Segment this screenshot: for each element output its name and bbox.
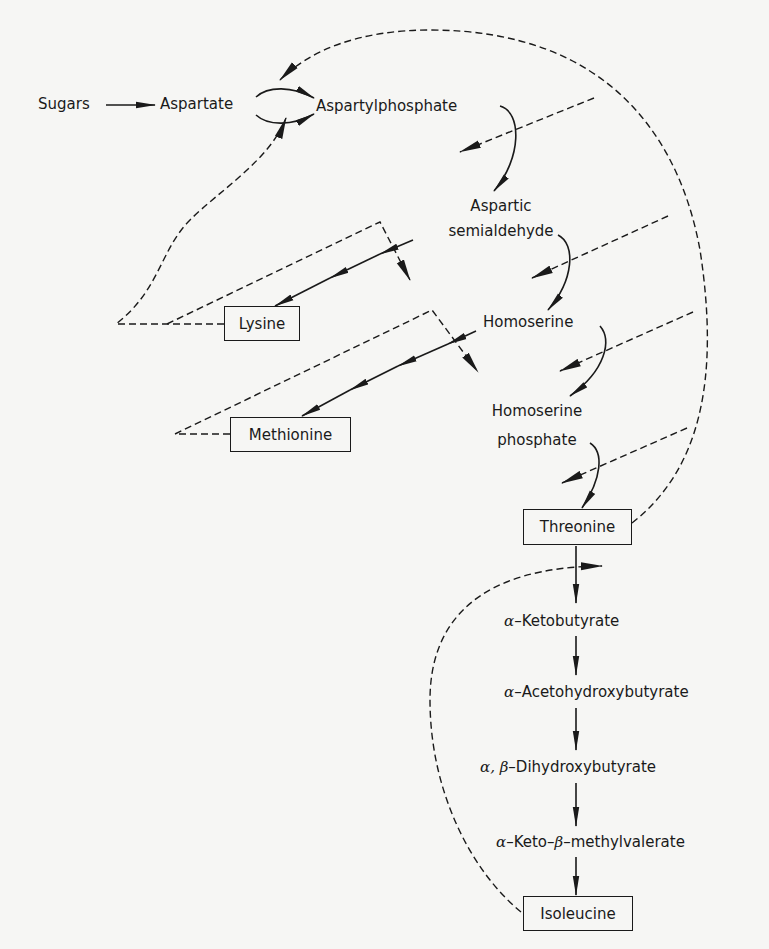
node-aspartic-semialdehyde-l1: Aspartic xyxy=(470,197,531,216)
pathway-diagram: Sugars Aspartate Aspartylphosphate Aspar… xyxy=(0,0,769,949)
node-threonine-box: Threonine xyxy=(523,509,632,545)
node-methionine: Methionine xyxy=(249,426,332,444)
node-isoleucine: Isoleucine xyxy=(540,905,615,923)
feedback-lysine-aspartokinase xyxy=(116,118,286,324)
arrow-homoserine-homoserinephosphate xyxy=(570,326,606,396)
node-lysine-box: Lysine xyxy=(224,306,300,341)
node-dihydroxybutyrate: α, β–Dihydroxybutyrate xyxy=(480,758,656,777)
node-sugars: Sugars xyxy=(38,95,90,114)
node-aspartylphosphate: Aspartylphosphate xyxy=(316,97,457,116)
node-homoserine-phosphate-l2: phosphate xyxy=(497,431,576,450)
node-methionine-box: Methionine xyxy=(230,417,351,452)
node-homoserine: Homoserine xyxy=(483,313,573,332)
node-ketomethylvalerate: α–Keto–β–methylvalerate xyxy=(496,833,685,852)
arrow-semialdehyde-homoserine xyxy=(548,235,570,310)
arrow-homoserinephosphate-threonine xyxy=(582,443,599,508)
arrow-aspartylphosphate-semialdehyde xyxy=(494,106,516,191)
arrow-aspartate-aspartylphosphate-upper xyxy=(256,89,314,98)
node-lysine: Lysine xyxy=(239,315,286,333)
node-isoleucine-box: Isoleucine xyxy=(523,896,633,931)
node-threonine: Threonine xyxy=(540,518,615,536)
node-acetohydroxybutyrate: α–Acetohydroxybutyrate xyxy=(504,683,689,702)
node-aspartate: Aspartate xyxy=(160,95,233,114)
node-aspartic-semialdehyde-l2: semialdehyde xyxy=(448,222,553,241)
feedback-methionine-branch xyxy=(175,310,478,434)
pathway-arrows xyxy=(0,0,769,949)
node-ketobutyrate: α–Ketobutyrate xyxy=(504,612,619,631)
node-homoserine-phosphate-l1: Homoserine xyxy=(492,402,582,421)
